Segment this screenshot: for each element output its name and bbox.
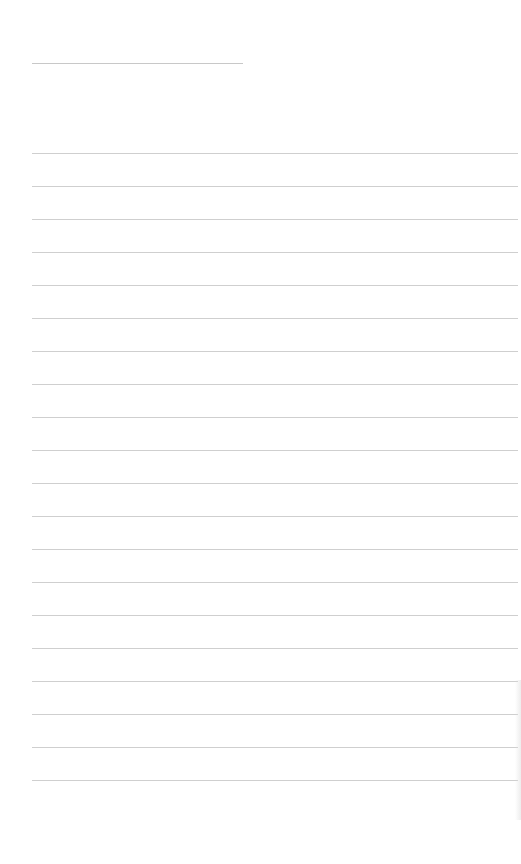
page-edge-shadow [515,680,521,820]
ruled-line [32,153,518,154]
title-line [32,63,243,64]
ruled-line [32,714,518,715]
ruled-line [32,516,518,517]
ruled-line [32,186,518,187]
lined-paper-page [0,0,521,864]
ruled-line [32,219,518,220]
ruled-line [32,417,518,418]
ruled-line [32,582,518,583]
ruled-line [32,351,518,352]
ruled-line [32,384,518,385]
ruled-line [32,318,518,319]
ruled-line [32,252,518,253]
ruled-line [32,285,518,286]
ruled-line [32,450,518,451]
ruled-line [32,681,518,682]
ruled-line [32,648,518,649]
ruled-line [32,747,518,748]
ruled-line [32,549,518,550]
ruled-line [32,483,518,484]
ruled-line [32,615,518,616]
ruled-line [32,780,518,781]
